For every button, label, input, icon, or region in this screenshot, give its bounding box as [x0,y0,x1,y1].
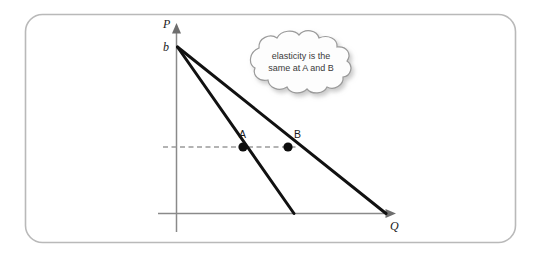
point-b-label: B [294,128,301,140]
callout-text-line-2: same at A and B [268,63,334,73]
demand-elasticity-figure: P Q b A B elasticity is the same at A an… [0,0,544,261]
point-b-marker [283,142,292,151]
quantity-axis-label: Q [390,219,399,233]
figure-canvas: P Q b A B elasticity is the same at A an… [0,0,544,261]
price-axis-label: P [162,17,171,31]
y-intercept-label: b [163,40,169,54]
point-a-label: A [239,128,246,140]
callout-text-line-1: elasticity is the [272,51,331,61]
point-a-marker [238,142,247,151]
